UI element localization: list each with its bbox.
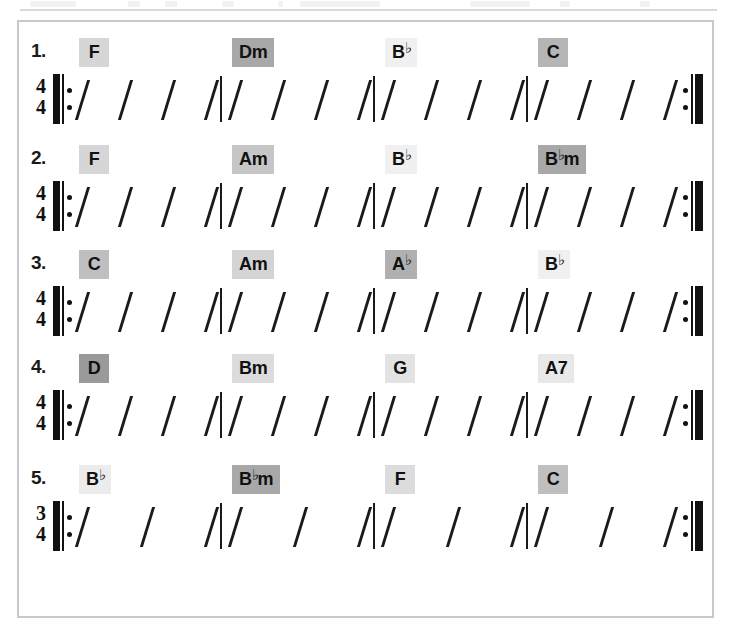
chord-root: F — [89, 149, 100, 170]
beat-slash — [139, 507, 154, 547]
repeat-dot-lower — [67, 532, 72, 537]
beat-slash — [314, 80, 329, 120]
repeat-thick-bar — [695, 74, 703, 124]
beat-slash — [292, 507, 307, 547]
beat-slash — [204, 507, 219, 547]
exercise-number: 2. — [31, 147, 46, 169]
chord-root: A — [239, 149, 252, 170]
barline — [373, 183, 375, 229]
beat-slash — [577, 187, 592, 227]
repeat-dot-lower — [67, 317, 72, 322]
repeat-thick-bar — [53, 181, 60, 231]
chord-root: C — [88, 254, 101, 275]
chord-root: B — [392, 149, 405, 170]
beat-slash — [75, 396, 90, 436]
chord-quality: m — [252, 254, 268, 275]
beat-slash — [357, 396, 372, 436]
time-signature: 34 — [31, 503, 51, 545]
chord-quality: m — [257, 469, 273, 490]
chord-root: B — [239, 469, 252, 490]
beat-slash — [75, 292, 90, 332]
exercise-number: 1. — [31, 40, 46, 62]
time-signature-beats: 4 — [31, 183, 51, 204]
repeat-dot-upper — [67, 88, 72, 93]
chord-label: G — [385, 354, 415, 383]
beat-slash — [424, 80, 439, 120]
chord-root: B — [239, 358, 252, 379]
chord-quality: 7 — [558, 358, 568, 379]
repeat-dot-upper — [683, 515, 688, 520]
beat-slash — [663, 292, 678, 332]
beat-slash — [534, 507, 549, 547]
barline — [220, 183, 222, 229]
beat-slash — [271, 80, 286, 120]
chord-label: C — [538, 38, 568, 67]
chord-chart-sheet: 1.FDmB♭C442.FAmB♭B♭m443.CAmA♭B♭444.DBmGA… — [17, 20, 714, 618]
beat-slash — [381, 292, 396, 332]
repeat-dot-upper — [67, 515, 72, 520]
repeat-thin-bar — [62, 390, 64, 440]
repeat-thin-bar — [691, 181, 693, 231]
barline — [526, 392, 528, 438]
beat-slash — [534, 292, 549, 332]
repeat-dot-lower — [683, 212, 688, 217]
beat-slash — [510, 187, 525, 227]
repeat-thin-bar — [62, 286, 64, 336]
chord-label: B♭ — [385, 38, 417, 67]
chord-quality: m — [252, 358, 268, 379]
chord-label: A7 — [538, 354, 574, 383]
exercise-row: 3.CAmA♭B♭44 — [19, 244, 716, 348]
barline — [220, 76, 222, 122]
chord-root: B — [86, 469, 99, 490]
beat-slash — [357, 187, 372, 227]
chord-root: B — [545, 149, 558, 170]
beat-slash — [534, 396, 549, 436]
chord-label: D — [79, 354, 109, 383]
beat-slash — [228, 292, 243, 332]
time-signature-unit: 4 — [31, 309, 51, 330]
beat-slash — [314, 187, 329, 227]
beat-slash — [204, 292, 219, 332]
exercise-number: 5. — [31, 467, 46, 489]
exercise-row: 5.B♭B♭mFC34 — [19, 459, 716, 563]
time-signature: 44 — [31, 183, 51, 225]
chord-root: D — [239, 42, 252, 63]
repeat-thin-bar — [691, 74, 693, 124]
chord-quality: m — [563, 149, 579, 170]
beat-slash — [118, 396, 133, 436]
beat-slash — [663, 396, 678, 436]
repeat-dot-lower — [67, 105, 72, 110]
beat-slash — [663, 507, 678, 547]
time-signature-beats: 4 — [31, 288, 51, 309]
exercise-number: 4. — [31, 356, 46, 378]
beat-slash — [467, 80, 482, 120]
beat-slash — [510, 292, 525, 332]
chord-root: F — [89, 42, 100, 63]
repeat-thin-bar — [691, 390, 693, 440]
barline — [220, 392, 222, 438]
chord-root: A — [392, 254, 405, 275]
beat-slash — [424, 292, 439, 332]
chord-label: B♭ — [79, 465, 111, 494]
chord-root: A — [545, 358, 558, 379]
chord-label: B♭ — [538, 250, 570, 279]
beat-slash — [314, 292, 329, 332]
time-signature-beats: 4 — [31, 76, 51, 97]
chord-root: F — [395, 469, 406, 490]
beat-slash — [271, 396, 286, 436]
repeat-thin-bar — [691, 286, 693, 336]
repeat-dot-upper — [683, 88, 688, 93]
beat-slash — [381, 187, 396, 227]
beat-slash — [271, 187, 286, 227]
staff: 44 — [19, 179, 716, 235]
beat-slash — [228, 507, 243, 547]
beat-slash — [204, 80, 219, 120]
chord-label: F — [385, 465, 415, 494]
beat-slash — [161, 80, 176, 120]
repeat-dot-lower — [683, 421, 688, 426]
staff: 44 — [19, 284, 716, 340]
beat-slash — [75, 80, 90, 120]
beat-slash — [161, 292, 176, 332]
time-signature: 44 — [31, 76, 51, 118]
barline — [373, 392, 375, 438]
